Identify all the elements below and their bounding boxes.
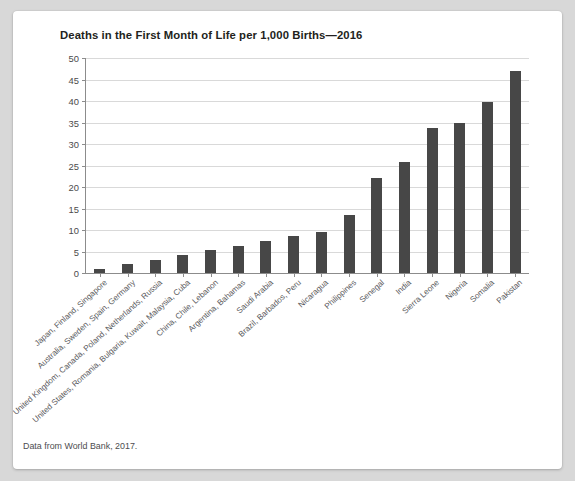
x-axis-tick-label: Senegal	[358, 278, 386, 305]
y-axis-tick-label: 45	[69, 74, 79, 85]
plot-area: 05101520253035404550 Japan, Finland, Sin…	[85, 58, 529, 274]
bar	[316, 232, 327, 273]
figure-caption: Data from World Bank, 2017.	[23, 441, 137, 451]
x-tick-mark	[100, 273, 101, 277]
x-tick-mark	[211, 273, 212, 277]
x-tick-mark	[460, 273, 461, 277]
x-tick-mark	[515, 273, 516, 277]
gridline-0	[86, 273, 529, 274]
x-tick-mark	[183, 273, 184, 277]
x-tick-mark	[238, 273, 239, 277]
y-axis-tick-label: 10	[69, 225, 79, 236]
bar	[233, 246, 244, 273]
x-tick-mark	[321, 273, 322, 277]
y-tick-mark-0	[82, 273, 86, 274]
x-axis-tick-label-wrap: Pakistan	[495, 278, 524, 305]
y-axis-tick-label: 35	[69, 117, 79, 128]
bar	[482, 102, 493, 273]
bar	[399, 162, 410, 273]
bar	[150, 260, 161, 273]
x-axis-tick-label: Nigeria	[444, 278, 469, 302]
plot-wrap: 05101520253035404550 Japan, Finland, Sin…	[13, 11, 562, 469]
bar	[344, 215, 355, 273]
y-axis-tick-label: 20	[69, 182, 79, 193]
y-axis-tick-label: 50	[69, 53, 79, 64]
x-tick-mark	[128, 273, 129, 277]
figure-card: Deaths in the First Month of Life per 1,…	[13, 11, 562, 469]
x-tick-mark	[487, 273, 488, 277]
x-tick-mark	[432, 273, 433, 277]
x-tick-mark	[404, 273, 405, 277]
y-axis-tick-label: 0	[74, 268, 79, 279]
bar	[288, 236, 299, 273]
y-axis-tick-label: 5	[74, 246, 79, 257]
bar-series	[86, 58, 529, 273]
x-axis-tick-label: Pakistan	[495, 278, 524, 305]
bar	[427, 128, 438, 273]
bar	[510, 71, 521, 273]
x-axis-tick-label-wrap: India	[394, 278, 413, 296]
y-axis-tick-label: 30	[69, 139, 79, 150]
y-axis-tick-label: 25	[69, 160, 79, 171]
bar	[260, 241, 271, 273]
y-axis-tick-label: 15	[69, 203, 79, 214]
bar	[205, 250, 216, 273]
x-tick-mark	[377, 273, 378, 277]
x-axis-tick-label: Somalia	[469, 278, 497, 304]
x-tick-mark	[349, 273, 350, 277]
x-axis-tick-label-wrap: Somalia	[469, 278, 497, 304]
x-tick-mark	[294, 273, 295, 277]
bar	[177, 255, 188, 273]
y-axis-tick-label: 40	[69, 96, 79, 107]
x-axis-tick-label-wrap: Nigeria	[444, 278, 469, 302]
x-tick-mark	[155, 273, 156, 277]
bar	[371, 178, 382, 273]
x-axis-tick-label-wrap: Senegal	[358, 278, 386, 305]
x-tick-mark	[266, 273, 267, 277]
bar	[454, 123, 465, 273]
x-axis-tick-label: India	[394, 278, 413, 296]
bar	[122, 264, 133, 273]
